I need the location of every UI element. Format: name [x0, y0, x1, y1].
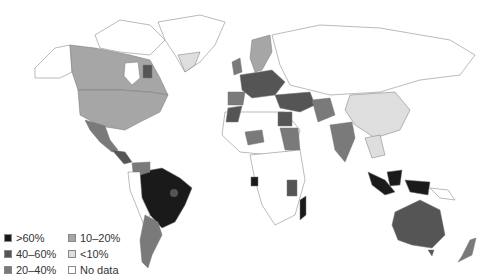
swatch-icon — [4, 266, 12, 274]
region-png — [430, 188, 455, 200]
region-canada — [70, 45, 168, 95]
region-india — [330, 122, 355, 162]
region-gabon — [251, 177, 258, 186]
swatch-icon — [4, 234, 12, 242]
region-iberia — [228, 92, 245, 105]
legend-item-20-40: 20–40% — [4, 263, 68, 277]
region-borneo — [387, 170, 402, 186]
region-scandinavia — [250, 35, 272, 72]
region-brazil-dot — [170, 189, 178, 197]
legend: >60% 10–20% 40–60% <10% 20–40% No data — [4, 231, 138, 277]
region-uk — [232, 58, 242, 75]
region-china — [345, 92, 410, 138]
legend-item-lt10: <10% — [68, 247, 138, 261]
region-madagascar — [300, 196, 306, 220]
region-russia — [272, 25, 475, 95]
region-canada-quebec — [143, 65, 152, 78]
legend-item-gt60: >60% — [4, 231, 68, 245]
swatch-icon — [4, 250, 12, 258]
region-se-asia — [365, 135, 385, 158]
region-turkey-mideast — [275, 92, 315, 112]
swatch-icon — [68, 234, 76, 242]
swatch-icon — [68, 250, 76, 258]
region-new-zealand — [458, 238, 476, 262]
legend-item-nodata: No data — [68, 263, 138, 277]
swatch-icon — [68, 266, 76, 274]
region-egypt — [278, 112, 292, 126]
region-alaska — [35, 45, 72, 78]
region-arctic-canada — [95, 20, 165, 55]
region-australia — [392, 200, 445, 248]
region-west-africa — [245, 130, 264, 145]
legend-item-10-20: 10–20% — [68, 231, 138, 245]
region-central-america — [112, 150, 132, 164]
legend-item-40-60: 40–60% — [4, 247, 68, 261]
region-west-europe — [240, 70, 285, 98]
region-tanzania — [287, 180, 297, 196]
region-iran — [312, 98, 335, 122]
region-tasmania — [428, 250, 434, 256]
region-indonesia-east — [405, 180, 430, 195]
